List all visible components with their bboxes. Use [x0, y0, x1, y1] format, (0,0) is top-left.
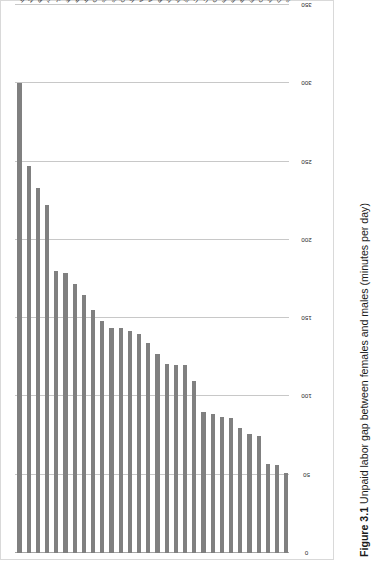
category-axis-labels: IndiaMexicoPortugalTurkeyJapanKoreaItaly…	[1, 0, 335, 553]
figure-caption-text: Figure 3.1 Unpaid labor gap between fema…	[358, 3, 370, 563]
figure-caption-number: Figure 3.1	[358, 507, 370, 557]
category-label: Italy	[69, 0, 80, 4]
plot-frame: 050100150200250300350 IndiaMexicoPortuga…	[0, 0, 334, 560]
figure-page: 050100150200250300350 IndiaMexicoPortuga…	[0, 0, 377, 566]
category-label: India	[13, 0, 25, 4]
bar-chart: 050100150200250300350 IndiaMexicoPortuga…	[0, 0, 334, 560]
figure-caption: Figure 3.1 Unpaid labor gap between fema…	[353, 0, 375, 566]
figure-caption-body: Unpaid labor gap between females and mal…	[358, 203, 370, 504]
